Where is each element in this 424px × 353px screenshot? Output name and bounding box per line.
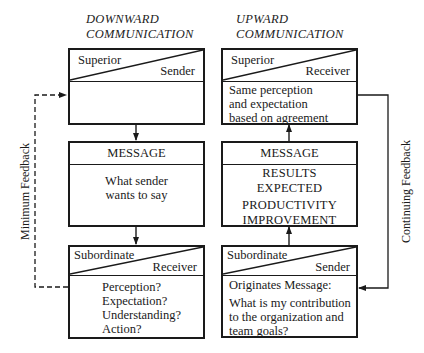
message-header: MESSAGE: [223, 143, 356, 165]
question-line: Expectation?: [102, 294, 181, 308]
receiver-questions: Perception? Expectation? Understanding? …: [102, 280, 181, 336]
message-body: RESULTS EXPECTED PRODUCTIVITY IMPROVEMEN…: [223, 166, 356, 227]
agreement-line: based on agreement: [229, 111, 328, 125]
message-header-label: MESSAGE: [70, 146, 203, 161]
originates-text: Originates Message: What is my contribut…: [229, 278, 351, 338]
role-superior: Superior: [231, 53, 274, 68]
upward-subordinate-box: Subordinate Sender Originates Message: W…: [221, 245, 358, 338]
minimum-feedback-label: Minimum Feedback: [18, 137, 33, 247]
role-header: Superior Sender: [70, 50, 203, 82]
role-receiver: Receiver: [306, 64, 350, 79]
message-line: RESULTS: [223, 166, 356, 181]
downward-message-box: MESSAGE What sender wants to say: [68, 141, 205, 227]
question-line: Perception?: [102, 280, 181, 294]
role-header: Subordinate Receiver: [70, 247, 203, 276]
originates-line: team goals?: [229, 324, 351, 338]
message-line: IMPROVEMENT: [223, 213, 356, 228]
downward-superior-box: Superior Sender: [68, 48, 205, 125]
upward-superior-box: Superior Receiver Same perception and ex…: [221, 48, 358, 125]
originates-heading: Originates Message:: [229, 278, 351, 292]
message-line: EXPECTED: [223, 181, 356, 196]
minimum-feedback-line: [35, 95, 68, 287]
role-subordinate: Subordinate: [74, 248, 134, 263]
role-sender: Sender: [315, 260, 350, 275]
message-line: PRODUCTIVITY: [223, 198, 356, 213]
role-header: Subordinate Sender: [223, 247, 356, 276]
role-receiver: Receiver: [153, 260, 197, 275]
role-header: Superior Receiver: [223, 50, 356, 82]
upward-message-box: MESSAGE RESULTS EXPECTED PRODUCTIVITY IM…: [221, 141, 358, 227]
role-superior: Superior: [78, 53, 121, 68]
message-header-label: MESSAGE: [223, 146, 356, 161]
agreement-text: Same perception and expectation based on…: [229, 83, 328, 125]
message-line: What sender: [70, 174, 203, 188]
continuing-feedback-label: Continuing Feedback: [399, 132, 414, 252]
role-sender: Sender: [160, 64, 195, 79]
question-line: Understanding?: [102, 308, 181, 322]
originates-line: What is my contribution: [229, 296, 351, 310]
connector-lines: [0, 0, 424, 353]
message-body: What sender wants to say: [70, 174, 203, 202]
downward-subordinate-box: Subordinate Receiver Perception? Expecta…: [68, 245, 205, 339]
message-header: MESSAGE: [70, 143, 203, 165]
agreement-line: and expectation: [229, 97, 328, 111]
continuing-feedback-line: [357, 95, 388, 288]
originates-line: to the organization and: [229, 310, 351, 324]
role-subordinate: Subordinate: [227, 248, 287, 263]
agreement-line: Same perception: [229, 83, 328, 97]
question-line: Action?: [102, 322, 181, 336]
message-line: wants to say: [70, 188, 203, 202]
